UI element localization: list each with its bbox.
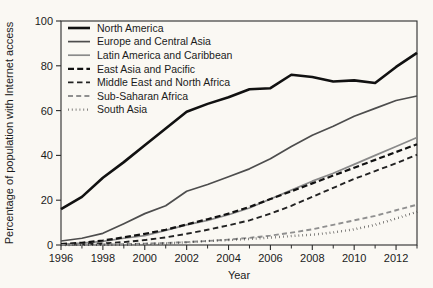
x-axis-title: Year xyxy=(228,269,251,281)
legend-label-middle-east-and-north-africa: Middle East and North Africa xyxy=(97,76,230,88)
y-tick-label-20: 20 xyxy=(41,194,53,206)
x-tick-label-2010: 2010 xyxy=(342,252,366,264)
y-tick-label-80: 80 xyxy=(41,60,53,72)
legend-label-east-asia-and-pacific: East Asia and Pacific xyxy=(97,63,195,75)
y-tick-label-0: 0 xyxy=(47,239,53,251)
y-tick-label-60: 60 xyxy=(41,105,53,117)
x-tick-label-2000: 2000 xyxy=(133,252,157,264)
chart-figure: 0204060801001996199820002002200420062008… xyxy=(0,0,433,288)
legend-label-europe-and-central-asia: Europe and Central Asia xyxy=(97,35,211,47)
legend-label-south-asia: South Asia xyxy=(97,103,147,115)
x-tick-label-2008: 2008 xyxy=(300,252,324,264)
x-tick-label-2006: 2006 xyxy=(258,252,282,264)
y-tick-label-100: 100 xyxy=(35,15,53,27)
x-tick-label-2002: 2002 xyxy=(174,252,198,264)
x-tick-label-2004: 2004 xyxy=(216,252,240,264)
y-tick-label-40: 40 xyxy=(41,149,53,161)
legend-label-north-america: North America xyxy=(97,22,164,34)
y-axis-title: Percentage of population with Internet a… xyxy=(3,21,15,244)
x-tick-label-1996: 1996 xyxy=(49,252,73,264)
x-tick-label-2012: 2012 xyxy=(384,252,408,264)
x-tick-label-1998: 1998 xyxy=(91,252,115,264)
line-chart-canvas: 0204060801001996199820002002200420062008… xyxy=(0,0,433,288)
legend-label-sub-saharan-africa: Sub-Saharan Africa xyxy=(97,90,188,102)
legend-label-latin-america-and-caribbean: Latin America and Caribbean xyxy=(97,49,233,61)
